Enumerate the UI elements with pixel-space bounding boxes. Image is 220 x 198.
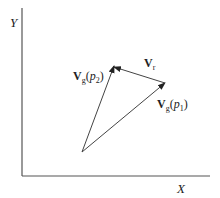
vector-vr bbox=[114, 67, 165, 83]
label-vg-p2-close: ) bbox=[100, 69, 104, 83]
label-vg-p1-close: ) bbox=[184, 97, 188, 111]
label-vg-p2-v: V bbox=[73, 69, 82, 83]
y-axis-label: Y bbox=[10, 15, 19, 30]
label-vr: Vr bbox=[144, 56, 156, 72]
label-vr-v: V bbox=[144, 56, 153, 70]
label-vr-sub: r bbox=[153, 63, 156, 72]
vector-diagram: Y X Vg(p2) Vr Vg(p1) bbox=[0, 0, 220, 198]
label-vg-p1: Vg(p1) bbox=[157, 97, 188, 113]
label-vg-p1-p: p bbox=[173, 97, 180, 111]
label-vg-p2: Vg(p2) bbox=[73, 69, 104, 85]
x-axis-label: X bbox=[176, 181, 186, 196]
label-vg-p2-p: p bbox=[89, 69, 96, 83]
diagram-svg: Y X Vg(p2) Vr Vg(p1) bbox=[0, 0, 220, 198]
label-vg-p1-v: V bbox=[157, 97, 166, 111]
